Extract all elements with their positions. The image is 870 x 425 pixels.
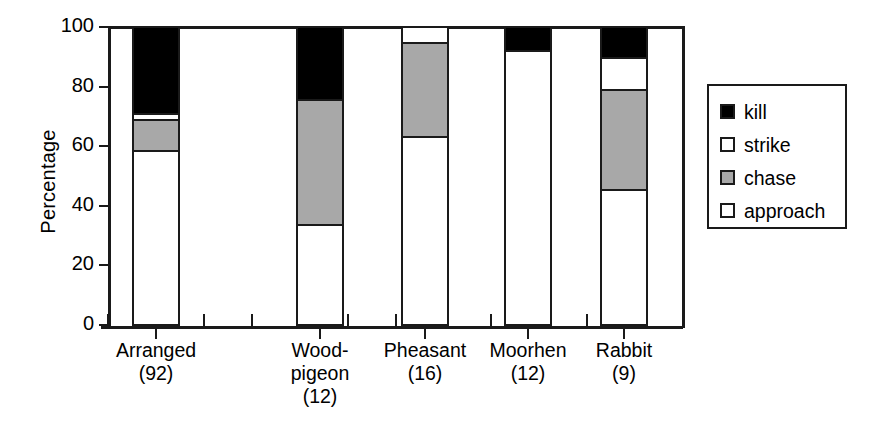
- bar-segment-kill[interactable]: [504, 26, 552, 52]
- x-minor-tick-3: [251, 314, 253, 327]
- bar-segment-chase[interactable]: [132, 119, 180, 152]
- legend-box: killstrikechaseapproach: [707, 84, 847, 229]
- bar-pheasant[interactable]: [401, 28, 449, 326]
- axis-right-spine: [682, 26, 685, 328]
- y-tick-label-40: 40: [72, 193, 94, 215]
- bar-segment-chase[interactable]: [600, 89, 648, 191]
- bar-segment-strike[interactable]: [401, 26, 449, 44]
- axis-bottom-spine: [101, 326, 683, 329]
- axis-left-spine: [108, 26, 111, 328]
- legend-item-strike[interactable]: strike: [720, 128, 845, 161]
- y-tick-100: 100: [99, 26, 108, 28]
- y-tick-80: 80: [99, 86, 108, 88]
- x-minor-tick-6: [395, 314, 397, 327]
- legend-label-strike: strike: [744, 135, 791, 155]
- bar-segment-approach[interactable]: [504, 50, 552, 326]
- bar-wood-pigeon[interactable]: [296, 28, 344, 326]
- bar-segment-kill[interactable]: [132, 26, 180, 115]
- y-tick-20: 20: [99, 264, 108, 266]
- x-minor-tick-5: [347, 314, 349, 327]
- bar-moorhen[interactable]: [504, 28, 552, 326]
- category-name-line: Arranged: [86, 339, 226, 362]
- x-major-tick-3: [527, 328, 529, 339]
- legend-swatch-kill: [720, 104, 735, 119]
- x-minor-tick-12: [682, 314, 684, 327]
- x-minor-tick-10: [586, 314, 588, 327]
- x-major-tick-0: [155, 328, 157, 339]
- stacked-bar-chart-figure: Percentage 020406080100 Arranged(92)Wood…: [0, 0, 870, 425]
- x-minor-tick-8: [490, 314, 492, 327]
- bar-segment-strike[interactable]: [600, 57, 648, 91]
- y-tick-60: 60: [99, 145, 108, 147]
- legend-label-approach: approach: [744, 201, 825, 221]
- legend-swatch-strike: [720, 137, 735, 152]
- legend-label-chase: chase: [744, 168, 796, 188]
- x-category-label-rabbit: Rabbit(9): [554, 339, 694, 385]
- category-sample-size: (92): [86, 362, 226, 385]
- bar-rabbit[interactable]: [600, 28, 648, 326]
- y-tick-label-100: 100: [61, 14, 94, 36]
- x-minor-tick-2: [203, 314, 205, 327]
- legend-item-kill[interactable]: kill: [720, 95, 845, 128]
- y-tick-label-60: 60: [72, 133, 94, 155]
- x-minor-tick-0: [107, 314, 109, 327]
- y-tick-label-80: 80: [72, 74, 94, 96]
- bar-segment-approach[interactable]: [401, 136, 449, 326]
- x-category-label-arranged: Arranged(92): [86, 339, 226, 385]
- bar-segment-approach[interactable]: [132, 150, 180, 326]
- x-major-tick-2: [424, 328, 426, 339]
- legend-item-approach[interactable]: approach: [720, 194, 845, 227]
- bar-segment-kill[interactable]: [600, 26, 648, 59]
- y-tick-label-20: 20: [72, 252, 94, 274]
- legend-swatch-chase: [720, 170, 735, 185]
- x-major-tick-1: [319, 328, 321, 339]
- legend-label-kill: kill: [744, 102, 767, 122]
- plot-area: 020406080100: [108, 28, 683, 326]
- bar-segment-approach[interactable]: [600, 189, 648, 326]
- bar-segment-kill[interactable]: [296, 26, 344, 101]
- x-major-tick-4: [623, 328, 625, 339]
- legend-swatch-approach: [720, 203, 735, 218]
- axis-top-spine: [108, 26, 685, 29]
- bar-segment-approach[interactable]: [296, 224, 344, 326]
- bar-segment-chase[interactable]: [296, 99, 344, 226]
- category-name-line: Rabbit: [554, 339, 694, 362]
- y-tick-40: 40: [99, 205, 108, 207]
- bar-arranged[interactable]: [132, 28, 180, 326]
- bar-segment-chase[interactable]: [401, 42, 449, 138]
- category-sample-size: (9): [554, 362, 694, 385]
- category-sample-size: (12): [250, 385, 390, 408]
- legend-item-chase[interactable]: chase: [720, 161, 845, 194]
- y-axis-title: Percentage: [37, 72, 60, 292]
- y-tick-label-0: 0: [83, 312, 94, 334]
